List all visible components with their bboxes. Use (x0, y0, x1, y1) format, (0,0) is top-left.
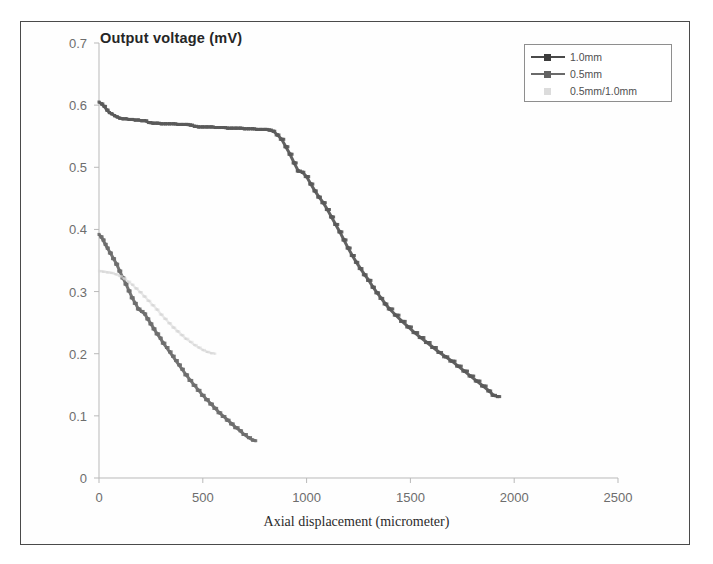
data-series-3 (98, 270, 216, 355)
legend-marker-icon-1 (531, 51, 565, 63)
y-tick-label: 0.4 (69, 222, 87, 237)
y-tick-label: 0.1 (69, 409, 87, 424)
legend-entry-1: 1.0mm (531, 49, 602, 65)
legend-label-2: 0.5mm (570, 68, 602, 80)
x-tick-label: 2000 (500, 490, 529, 505)
y-axis-title: Output voltage (mV) (100, 30, 242, 46)
legend-entry-3: 0.5mm/1.0mm (531, 83, 637, 99)
x-tick-label: 1000 (292, 490, 321, 505)
x-tick-label: 2500 (604, 490, 633, 505)
data-series-group (98, 101, 502, 443)
x-tick-label: 500 (192, 490, 214, 505)
chart-legend: 1.0mm 0.5mm 0.5mm/1.0mm (524, 44, 672, 102)
x-axis-title: Axial displacement (micrometer) (0, 514, 713, 530)
data-series-2 (98, 233, 258, 442)
y-tick-label: 0 (80, 471, 87, 486)
x-tick-label: 1500 (396, 490, 425, 505)
legend-marker-icon-2 (531, 68, 565, 80)
y-tick-label: 0.5 (69, 160, 87, 175)
legend-label-3: 0.5mm/1.0mm (570, 85, 637, 97)
y-tick-label: 0.6 (69, 98, 87, 113)
x-tick-label: 0 (95, 490, 102, 505)
legend-label-1: 1.0mm (570, 51, 602, 63)
tick-labels-group: 00.10.20.30.40.50.60.7050010001500200025… (69, 36, 633, 505)
data-series-1 (98, 101, 502, 399)
figure-container: 00.10.20.30.40.50.60.7050010001500200025… (0, 0, 713, 564)
y-tick-label: 0.2 (69, 347, 87, 362)
legend-entry-2: 0.5mm (531, 66, 602, 82)
y-tick-label: 0.3 (69, 285, 87, 300)
legend-marker-icon-3 (531, 85, 565, 97)
y-tick-label: 0.7 (69, 36, 87, 51)
